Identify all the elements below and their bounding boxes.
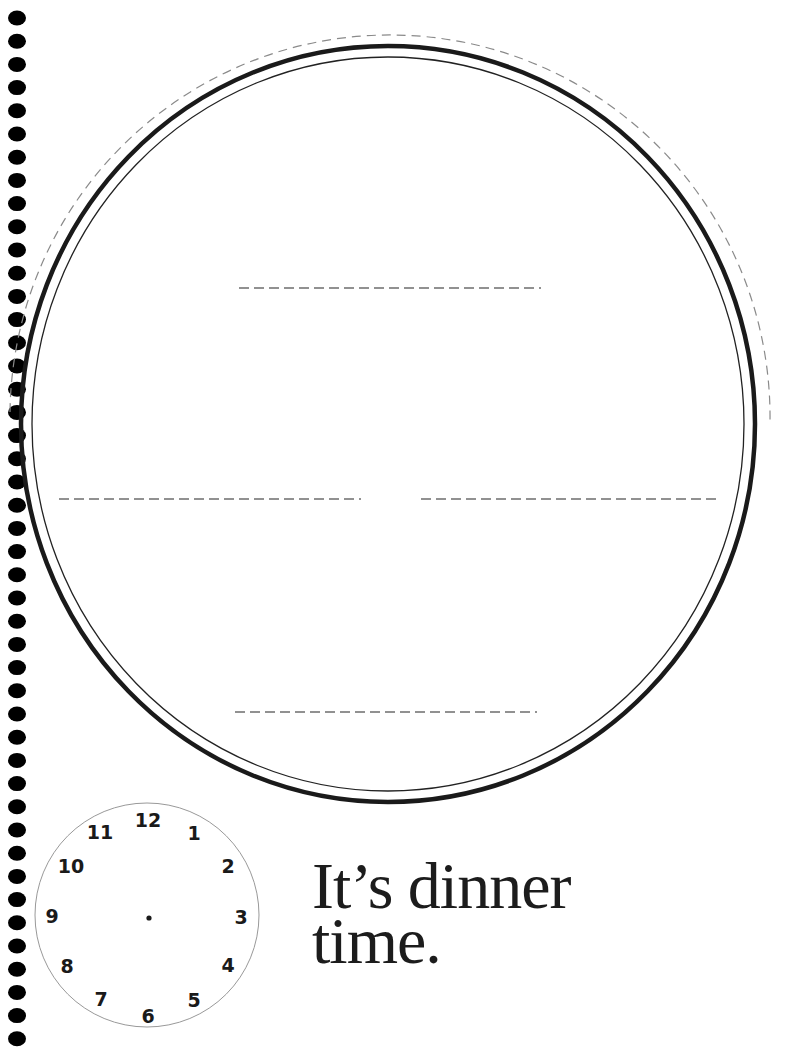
clock-number-2: 2 [221,855,234,877]
clock-number-6: 6 [141,1005,154,1027]
clock-number-11: 11 [87,821,113,843]
activity-page: 12 1 2 3 4 5 6 7 8 9 10 11 It’s dinner t… [0,0,788,1053]
clock-number-8: 8 [60,955,73,977]
clock-number-5: 5 [187,989,200,1011]
clock-center-dot [146,915,151,920]
page-title: It’s dinner time. [312,858,570,968]
clock-number-12: 12 [135,809,161,831]
clock-outline [35,803,259,1027]
clock-number-7: 7 [94,988,107,1010]
clock-number-9: 9 [45,905,58,927]
clock-number-3: 3 [234,906,247,928]
clock-number-4: 4 [221,954,234,976]
clock-number-1: 1 [187,822,200,844]
clock-number-10: 10 [58,855,84,877]
